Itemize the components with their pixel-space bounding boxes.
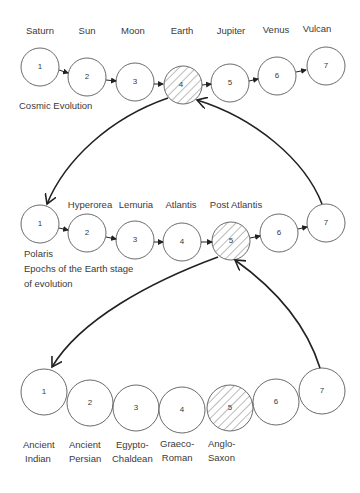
label-anglo-saxon: Anglo- Saxon: [208, 437, 235, 465]
num: 4: [180, 403, 184, 417]
num: 4: [180, 235, 184, 249]
num: 3: [133, 75, 137, 89]
num: 4: [179, 78, 183, 92]
row-cultural-circles: [21, 368, 345, 433]
label-line: Ancient: [69, 438, 101, 452]
arrow-row2-7-to-earth: [197, 100, 322, 204]
arrow-earth-to-polaris: [47, 98, 168, 204]
label-atlantis: Atlantis: [165, 198, 196, 212]
num: 2: [85, 70, 89, 84]
label-line: Graeco-: [160, 437, 194, 451]
label-egypto-chaldean: Egypto- Chaldean: [112, 438, 153, 466]
label-line: Saxon: [208, 451, 235, 465]
num: 1: [42, 385, 46, 399]
label-graeco-roman: Graeco- Roman: [160, 437, 194, 465]
label-jupiter: Jupiter: [217, 24, 246, 38]
num: 1: [38, 60, 42, 74]
arrow-row3-7-to-post-atlantis: [235, 260, 320, 368]
label-lemuria: Lemuria: [119, 198, 153, 212]
label-line: Chaldean: [112, 452, 153, 466]
label-line: Indian: [23, 452, 55, 466]
label-line: Persian: [69, 452, 101, 466]
label-sun: Sun: [79, 24, 96, 38]
num: 1: [38, 217, 42, 231]
caption-epochs-line1: Epochs of the Earth stage: [24, 262, 133, 276]
label-line: Roman: [160, 451, 194, 465]
num: 7: [324, 216, 328, 230]
label-post-atlantis: Post Atlantis: [210, 198, 262, 212]
num: 2: [88, 396, 92, 410]
label-earth: Earth: [171, 24, 194, 38]
num: 5: [228, 76, 232, 90]
num: 5: [228, 401, 232, 415]
label-line: Egypto-: [112, 438, 153, 452]
num: 6: [274, 395, 278, 409]
label-moon: Moon: [121, 24, 145, 38]
label-line: Anglo-: [208, 437, 235, 451]
caption-epochs-line2: of evolution: [24, 277, 73, 291]
num: 2: [85, 226, 89, 240]
label-ancient-indian: Ancient Indian: [23, 438, 55, 466]
label-ancient-persian: Ancient Persian: [69, 438, 101, 466]
num: 7: [324, 59, 328, 73]
label-venus: Venus: [263, 23, 289, 37]
num: 3: [133, 233, 137, 247]
num: 6: [277, 226, 281, 240]
num: 6: [275, 69, 279, 83]
row-cosmic-circles: [21, 47, 345, 104]
label-vulcan: Vulcan: [303, 22, 332, 36]
label-saturn: Saturn: [26, 24, 54, 38]
num: 5: [229, 234, 233, 248]
label-line: Ancient: [23, 438, 55, 452]
caption-cosmic-evolution: Cosmic Evolution: [19, 99, 92, 113]
label-polaris: Polaris: [24, 247, 53, 261]
num: 3: [134, 401, 138, 415]
label-hyperorea: Hyperorea: [68, 198, 112, 212]
num: 7: [320, 384, 324, 398]
row-earth-circles: [21, 204, 345, 261]
